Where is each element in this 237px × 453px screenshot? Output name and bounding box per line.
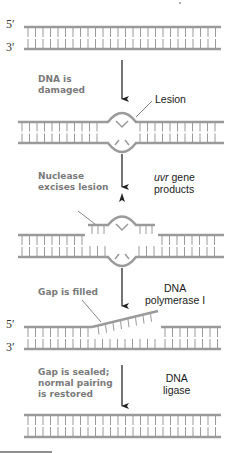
dna-lesion xyxy=(18,113,224,152)
step-label-damaged: DNA is damaged xyxy=(38,74,85,96)
step-label-sealed: Gap is sealed; normal pairing is restore… xyxy=(38,367,113,400)
arrow-up-excision xyxy=(119,193,125,202)
stray-mark xyxy=(179,2,181,4)
dna-intact xyxy=(24,27,221,49)
lesion-leader-line xyxy=(136,101,152,117)
nuclease-leader-line xyxy=(78,211,95,224)
step-label-gap-filled: Gap is filled xyxy=(38,287,98,298)
enzyme-label-polymerase: DNA polymerase I xyxy=(145,282,205,306)
dna-excision xyxy=(18,217,224,267)
five-prime-label-top: 5′ xyxy=(6,18,15,30)
dna-excision-repair-diagram: 5′ 3′ 5′ 3′ DNA is damaged Lesion Nuclea… xyxy=(0,0,237,453)
diagram-graphics xyxy=(0,0,237,453)
enzyme-label-ligase: DNA ligase xyxy=(163,372,190,396)
step-label-excision: Nuclease excises lesion xyxy=(38,171,109,193)
gap-filled-leader-line xyxy=(82,300,101,322)
five-prime-label-fill: 5′ xyxy=(6,318,15,330)
three-prime-label-top: 3′ xyxy=(6,41,15,53)
lesion-callout: Lesion xyxy=(155,93,186,105)
dna-gap-filled xyxy=(24,311,221,349)
enzyme-label-uvr: uvr gene products xyxy=(154,171,195,195)
dna-sealed xyxy=(24,415,221,437)
three-prime-label-fill: 3′ xyxy=(6,341,15,353)
